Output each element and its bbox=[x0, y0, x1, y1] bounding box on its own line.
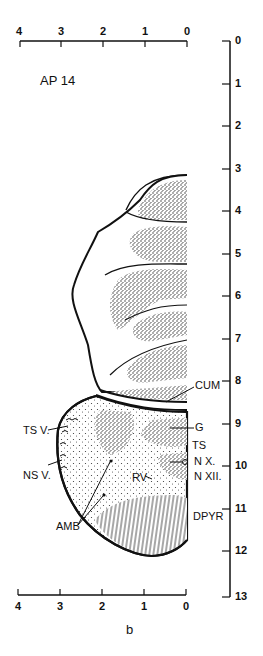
top-scale-tick-3: 3 bbox=[58, 26, 64, 37]
top-scale-tick-4: 4 bbox=[16, 26, 22, 37]
vertical-scale-tick-1: 1 bbox=[235, 78, 241, 89]
label-n-x: N X. bbox=[194, 456, 215, 467]
vertical-scale-tick-10: 10 bbox=[235, 460, 247, 471]
vertical-scale-tick-5: 5 bbox=[235, 248, 241, 259]
section-label: AP 14 bbox=[40, 73, 75, 88]
vertical-scale-tick-8: 8 bbox=[235, 375, 241, 386]
label-dpyr: DPYR bbox=[193, 511, 224, 522]
top-scale-tick-0: 0 bbox=[184, 26, 190, 37]
label-ts: TS bbox=[192, 440, 206, 451]
vertical-scale-tick-13: 13 bbox=[235, 591, 247, 602]
bottom-scale-tick-1: 1 bbox=[141, 601, 147, 612]
bottom-scale-tick-3: 3 bbox=[57, 601, 63, 612]
top-scale-tick-2: 2 bbox=[100, 26, 106, 37]
vertical-scale-tick-9: 9 bbox=[235, 418, 241, 429]
vertical-scale-tick-6: 6 bbox=[235, 290, 241, 301]
bottom-scale-tick-4: 4 bbox=[15, 601, 21, 612]
label-ns-v: NS V. bbox=[23, 470, 51, 481]
label-ts-v: TS V. bbox=[23, 425, 50, 436]
label-cum: CUM bbox=[195, 380, 220, 391]
label-rv: RV bbox=[132, 472, 147, 483]
label-amb: AMB bbox=[56, 521, 80, 532]
top-scale bbox=[20, 41, 187, 47]
atlas-drawing bbox=[0, 0, 263, 656]
vertical-scale-tick-0: 0 bbox=[235, 35, 241, 46]
vertical-scale-tick-7: 7 bbox=[235, 333, 241, 344]
vertical-scale-tick-2: 2 bbox=[235, 120, 241, 131]
vertical-scale-tick-4: 4 bbox=[235, 205, 241, 216]
label-g: G bbox=[195, 422, 204, 433]
bottom-scale-tick-0: 0 bbox=[183, 601, 189, 612]
top-scale-tick-1: 1 bbox=[142, 26, 148, 37]
bottom-scale-tick-2: 2 bbox=[99, 601, 105, 612]
vertical-scale-tick-3: 3 bbox=[235, 163, 241, 174]
figure-caption: b bbox=[126, 622, 133, 637]
label-n-xii: N XII. bbox=[194, 471, 222, 482]
bottom-scale bbox=[18, 589, 186, 595]
vertical-scale-tick-11: 11 bbox=[235, 503, 247, 514]
cerebellum bbox=[72, 175, 187, 410]
vertical-scale-tick-12: 12 bbox=[235, 545, 247, 556]
